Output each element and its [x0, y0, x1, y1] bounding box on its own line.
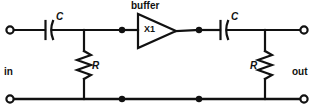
junction-ground-right-dot: [196, 96, 202, 102]
wire-buffer-out-to-node: [176, 30, 199, 31]
amplifier-designator-label: X1: [144, 25, 155, 34]
input-ground-terminal-node[interactable]: [6, 95, 13, 102]
output-port-label: out: [292, 67, 308, 77]
junction-input-node-dot: [119, 27, 125, 33]
junction-ground-left-dot: [119, 96, 125, 102]
output-ground-terminal-node[interactable]: [300, 95, 307, 102]
buffer-label: buffer: [131, 1, 159, 11]
input-port-label: in: [4, 67, 13, 77]
input-resistor-label: R: [92, 61, 99, 71]
output-capacitor-label: C: [231, 12, 238, 22]
output-terminal-node[interactable]: [300, 26, 307, 33]
resistor-r1-zigzag: [77, 51, 91, 79]
output-resistor-label: R: [250, 61, 257, 71]
resistor-r2-zigzag: [258, 51, 272, 79]
input-terminal-node[interactable]: [6, 26, 13, 33]
schematic-canvas: [0, 0, 314, 112]
junction-output-node-dot: [196, 27, 202, 33]
input-capacitor-label: C: [56, 12, 63, 22]
circuit-diagram: buffer X1 C C R R in out: [0, 0, 314, 112]
